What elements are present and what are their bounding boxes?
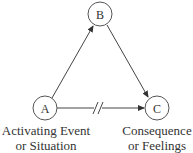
edge-a-to-b [52, 26, 93, 98]
node-b: B [88, 2, 112, 26]
node-c-label: C [153, 102, 161, 116]
caption-c: Consequence or Feelings [118, 123, 193, 153]
caption-a-line2: or Situation [0, 138, 92, 153]
node-b-label: B [96, 8, 104, 22]
node-c: C [145, 96, 169, 120]
caption-a-line1: Activating Event [0, 123, 92, 138]
node-a: A [33, 96, 57, 120]
node-a-label: A [41, 102, 50, 116]
caption-c-line1: Consequence [118, 123, 193, 138]
edge-b-to-c [107, 25, 148, 97]
caption-a: Activating Event or Situation [0, 123, 92, 153]
break-mark-icon [93, 101, 103, 115]
caption-c-line2: or Feelings [118, 138, 193, 153]
